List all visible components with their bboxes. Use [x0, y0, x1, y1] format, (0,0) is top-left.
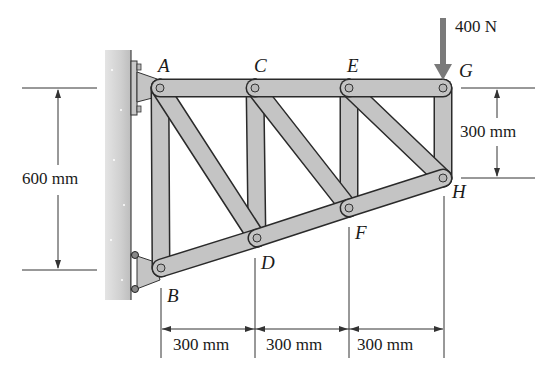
truss-diagram — [0, 0, 560, 369]
joint-label-b: B — [167, 285, 179, 307]
truss-members — [160, 88, 443, 268]
joint-label-a: A — [158, 55, 170, 77]
load-label: 400 N — [455, 17, 497, 37]
pin-d-icon — [253, 234, 261, 242]
joint-label-f: F — [355, 222, 367, 244]
dimension-label-300-right: 300 mm — [459, 122, 517, 142]
dimension-label-600: 600 mm — [21, 169, 79, 189]
truss-pins — [156, 84, 447, 272]
dimension-label-span-3: 300 mm — [356, 335, 414, 355]
joint-label-h: H — [452, 181, 466, 203]
pin-b-icon — [157, 264, 165, 272]
dimension-label-span-1: 300 mm — [172, 335, 230, 355]
pin-e-icon — [345, 84, 353, 92]
pin-h-icon — [439, 174, 447, 182]
wall-support — [105, 50, 131, 300]
pin-f-icon — [345, 204, 353, 212]
joint-label-d: D — [261, 252, 275, 274]
pin-a-icon — [156, 84, 164, 92]
pin-g-icon — [439, 84, 447, 92]
joint-label-e: E — [347, 55, 359, 77]
dimension-label-span-2: 300 mm — [265, 335, 323, 355]
pin-c-icon — [251, 84, 259, 92]
joint-label-c: C — [254, 55, 267, 77]
joint-label-g: G — [459, 60, 473, 82]
load-arrow-icon — [434, 18, 452, 80]
